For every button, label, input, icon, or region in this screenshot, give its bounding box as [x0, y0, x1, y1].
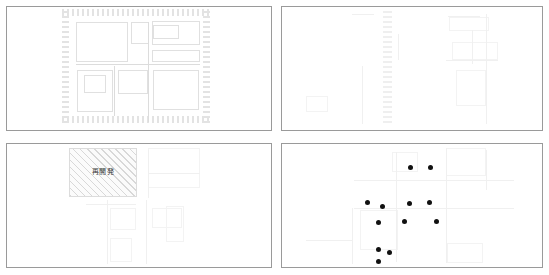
map-street-line — [486, 14, 487, 124]
map-street-line — [446, 148, 447, 263]
map-street-line — [148, 150, 149, 198]
panel-bottom-right — [281, 143, 543, 268]
map-street-line — [362, 66, 363, 124]
point-marker — [380, 204, 385, 209]
map-street-line — [472, 30, 473, 64]
map-street-line — [107, 200, 108, 264]
map-building-footprint — [152, 50, 200, 62]
point-marker — [408, 165, 413, 170]
redevelopment-area-block: 再開発 — [69, 148, 137, 197]
hatched-boundary-left — [62, 9, 69, 123]
map-building-footprint — [110, 238, 132, 262]
panel-bottom-right-canvas — [282, 144, 542, 267]
map-street-line — [306, 240, 352, 241]
map-building-footprint — [148, 148, 200, 188]
hatched-corridor-strip — [383, 9, 392, 123]
hatched-boundary-bottom — [62, 116, 210, 123]
map-street-line — [448, 16, 480, 17]
map-street-line — [146, 200, 147, 264]
map-building-footprint — [76, 22, 128, 62]
map-street-line — [86, 204, 136, 205]
point-marker — [427, 200, 432, 205]
point-marker — [434, 219, 439, 224]
map-street-line — [354, 180, 514, 181]
map-street-line — [396, 152, 397, 262]
map-building-footprint — [153, 25, 179, 39]
point-marker — [428, 165, 433, 170]
hatched-boundary-right — [203, 9, 210, 123]
map-building-footprint — [446, 148, 486, 176]
point-marker — [407, 201, 412, 206]
point-marker — [387, 250, 392, 255]
map-building-footprint — [452, 42, 498, 60]
panel-top-left — [6, 6, 272, 131]
map-building-footprint — [153, 70, 199, 110]
map-street-line — [352, 14, 374, 15]
point-marker — [365, 200, 370, 205]
point-marker — [376, 220, 381, 225]
map-building-footprint — [110, 208, 136, 230]
map-building-footprint — [77, 70, 113, 112]
panel-bottom-left-canvas: 再開発 — [7, 144, 271, 267]
map-street-line — [76, 64, 200, 65]
panel-top-left-canvas — [7, 7, 271, 130]
hatched-boundary-top — [62, 9, 210, 16]
map-building-footprint — [447, 243, 483, 263]
panel-top-right — [281, 6, 543, 131]
panel-top-right-canvas — [282, 7, 542, 130]
point-marker — [376, 247, 381, 252]
point-marker — [376, 259, 381, 264]
map-street-line — [354, 208, 514, 209]
map-street-line — [486, 150, 487, 190]
figure-four-panel-map-series: 再開発 — [0, 0, 549, 275]
map-street-line — [352, 208, 353, 264]
map-building-footprint — [449, 17, 489, 31]
map-street-line — [114, 66, 115, 116]
redevelopment-label: 再開発 — [92, 169, 114, 176]
map-street-line — [148, 22, 149, 122]
map-building-footprint — [456, 70, 486, 106]
map-building-footprint — [166, 206, 184, 242]
map-building-footprint — [118, 70, 148, 94]
map-building-footprint — [306, 96, 328, 112]
map-street-line — [398, 34, 399, 60]
map-street-line — [148, 173, 200, 174]
map-building-footprint — [360, 210, 398, 250]
panel-bottom-left: 再開発 — [6, 143, 272, 268]
point-marker — [402, 219, 407, 224]
map-building-footprint — [131, 22, 149, 44]
